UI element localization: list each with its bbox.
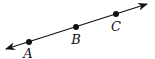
line-diagram: A B C (0, 0, 155, 59)
label-c: C (111, 19, 121, 34)
point-a (26, 39, 32, 45)
label-a: A (22, 46, 32, 59)
label-b: B (70, 32, 81, 47)
point-b (73, 24, 79, 30)
point-c (113, 11, 119, 17)
